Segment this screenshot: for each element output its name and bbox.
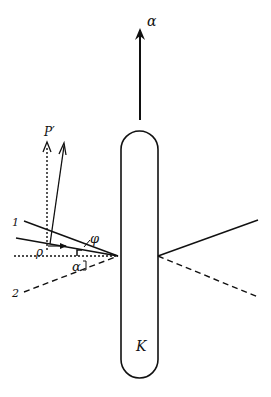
arrowhead-icon (43, 142, 51, 152)
momentum-arrow (50, 146, 64, 244)
body-label: K (135, 338, 148, 354)
right-solid-ray (158, 220, 258, 256)
right-dashed-ray (158, 256, 258, 297)
velocity-arrow (135, 28, 145, 120)
incident-line (16, 238, 118, 256)
ray-1-label: 1 (12, 216, 19, 229)
ray-2-label: 2 (11, 287, 19, 300)
momentum-prime-label: P′ (43, 125, 55, 139)
velocity-label: α (147, 13, 157, 29)
angle-phi-label: φ (90, 231, 100, 246)
right-angle-marker (77, 250, 82, 256)
angle-rho-label: ρ (35, 245, 43, 259)
arrowhead-icon (60, 243, 67, 249)
diagram-canvas: α K 1 2 P′ ρ φ α (0, 0, 271, 397)
angle-alpha-label: α (72, 259, 81, 274)
ray-2-dashed-line (24, 256, 118, 292)
